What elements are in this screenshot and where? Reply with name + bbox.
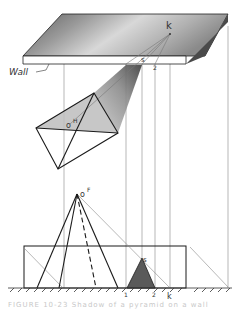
label-1-front: 1 <box>124 291 128 298</box>
label-k-top: k <box>166 20 172 31</box>
label-k-front: k <box>167 292 172 301</box>
label-o-front-sup: F <box>87 186 91 193</box>
shadow-triangle-front <box>127 258 155 288</box>
label-2-top: 2 <box>153 64 157 71</box>
label-o-front: o <box>80 190 85 199</box>
label-2-front: 2 <box>152 291 156 298</box>
label-o-plan: o <box>66 121 71 130</box>
wall-leader <box>36 70 46 72</box>
label-o-plan-sup: H <box>73 117 78 124</box>
wall-slab <box>23 14 228 64</box>
ground-line <box>8 288 232 292</box>
point-k <box>169 33 171 35</box>
label-s-front: s <box>143 256 147 264</box>
wall-leader-arrow <box>46 64 49 70</box>
label-s-top: s <box>141 56 145 64</box>
label-wall: Wall <box>9 67 28 77</box>
figure-caption: FIGURE 10-23 Shadow of a pyramid on a wa… <box>8 301 209 309</box>
shadow-construction-diagram: k s 2 Wall o H o F s 1 2 k <box>0 0 240 309</box>
